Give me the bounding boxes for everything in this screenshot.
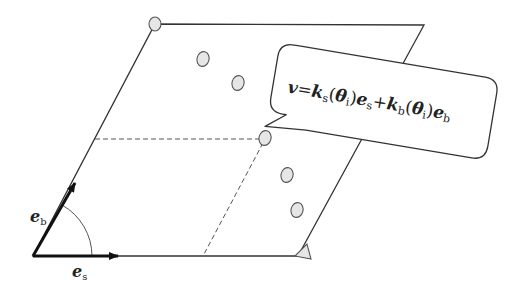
point-4	[289, 201, 304, 219]
point-corner-top-left	[149, 17, 161, 31]
equation-callout: v=ks(θi)es+kb(θi)eb	[265, 43, 499, 164]
point-1	[195, 50, 210, 68]
diagram-canvas: eb es v=ks(θi)es+kb(θi)eb	[0, 0, 515, 291]
point-3	[279, 166, 294, 184]
label-eb: eb	[30, 207, 47, 227]
point-highlighted	[257, 129, 272, 147]
dashed-slanted-line	[203, 143, 263, 256]
point-2	[230, 74, 245, 92]
label-es: es	[72, 262, 87, 282]
angle-arc	[62, 205, 92, 256]
